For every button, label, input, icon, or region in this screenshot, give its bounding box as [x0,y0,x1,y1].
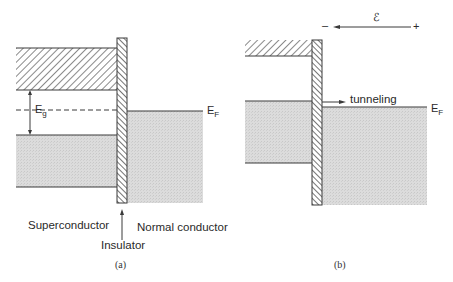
lower-band-shaded-b [245,101,312,163]
energy-gap-arrow [28,90,32,135]
caption-a: (a) [115,259,126,270]
electric-field-arrow [333,25,411,29]
insulator-barrier-b [312,40,322,205]
caption-b: (b) [334,259,346,270]
fermi-level-label-a: EF [207,104,219,116]
normal-conductor-region-b [322,107,427,205]
insulator-pointer-arrow [120,209,124,240]
insulator-barrier [117,38,127,203]
tunneling-diagram [0,0,453,282]
field-plus: + [413,20,419,32]
tunneling-arrow [322,100,346,104]
tunneling-label: tunneling [350,93,397,105]
energy-gap-label: Eg [35,103,47,115]
normal-conductor-label: Normal conductor [137,221,228,233]
lower-band-shaded [16,135,117,187]
field-symbol: ℰ [373,11,380,24]
fermi-level-label-b: EF [431,102,443,114]
normal-conductor-region [127,111,203,203]
panel-b [245,25,427,205]
upper-band-hatched [16,48,117,90]
upper-band-hatched-b [245,40,312,56]
superconductor-label: Superconductor [28,219,109,231]
field-minus: – [322,19,328,31]
insulator-label: Insulator [101,239,145,251]
panel-a [16,38,203,240]
